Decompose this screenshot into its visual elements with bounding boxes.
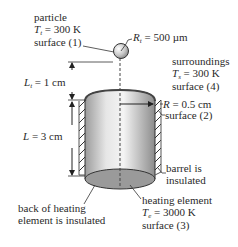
surroundings-title: surroundings <box>172 55 229 67</box>
heating-element-title: heating element <box>142 194 212 206</box>
particle-temp: Tt = 300 K <box>34 23 81 37</box>
particle-surface-label: surface (1) <box>34 36 82 49</box>
particle-title: particle <box>34 11 67 23</box>
gap-label: Lt = 1 cm <box>23 76 66 90</box>
back-note-line1: back of heating <box>18 202 86 214</box>
barrel-surface-label: surface (2) <box>165 109 213 122</box>
back-note-line2: element is insulated <box>18 214 106 226</box>
length-label: L = 3 cm <box>22 130 63 142</box>
radiation-diagram: particle Tt = 300 K surface (1) Rt = 500… <box>0 0 238 247</box>
barrel-note-line2: insulated <box>166 174 206 186</box>
barrel-leader <box>158 168 166 173</box>
left-insulation-hatching <box>79 101 85 171</box>
surroundings-surface-label: surface (4) <box>172 80 220 93</box>
barrel-note-line1: barrel is <box>166 162 202 174</box>
surroundings-temp: Ts = 300 K <box>172 67 220 81</box>
heating-element-surface-label: surface (3) <box>142 219 190 232</box>
particle-leader <box>83 46 114 52</box>
particle-radius-leader <box>126 39 132 44</box>
heating-element-temp: Te = 3000 K <box>142 206 196 220</box>
particle-radius-label: Rt = 500 µm <box>132 31 188 45</box>
